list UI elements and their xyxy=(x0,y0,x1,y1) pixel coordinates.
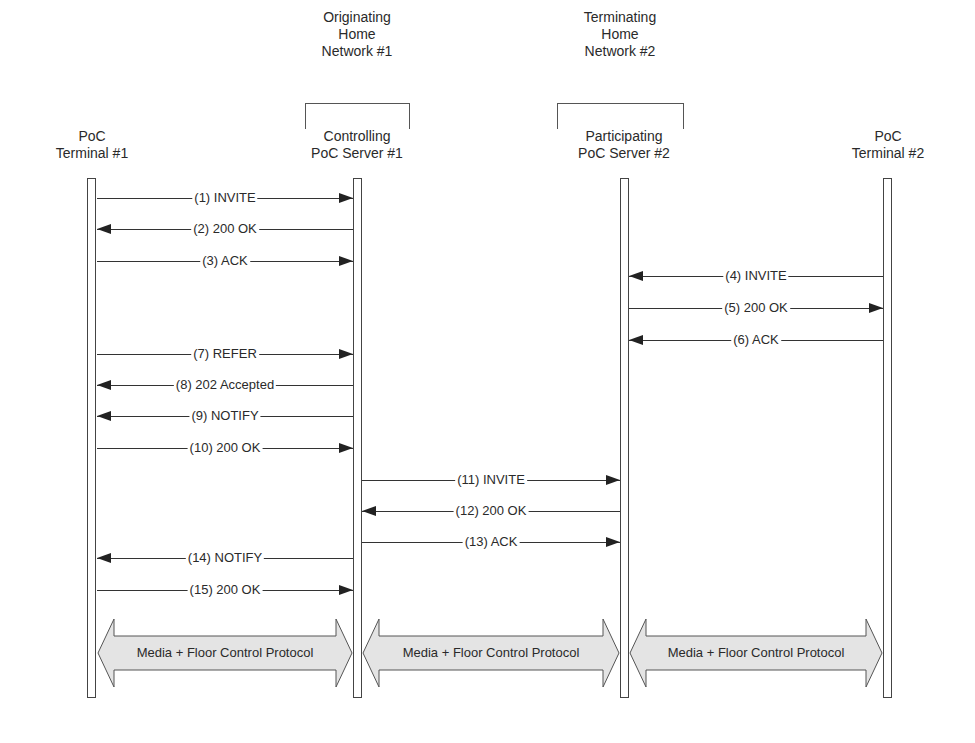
network-bracket-1 xyxy=(305,103,410,129)
network-bracket-2 xyxy=(557,103,684,129)
message-label: (7) REFER xyxy=(191,346,259,362)
entity-label-terminal-1: PoC Terminal #1 xyxy=(56,128,128,162)
message-label: (4) INVITE xyxy=(723,268,788,284)
lifeline-terminal-2 xyxy=(883,178,892,698)
message-label: (6) ACK xyxy=(731,332,781,348)
message-label: (2) 200 OK xyxy=(191,221,259,237)
lifeline-server-1 xyxy=(353,178,362,698)
message-label: (8) 202 Accepted xyxy=(174,377,276,393)
arrow-left-icon xyxy=(97,411,111,421)
message-5-200ok: (5) 200 OK xyxy=(629,300,883,316)
message-12-200ok: (12) 200 OK xyxy=(362,503,620,519)
message-label: (14) NOTIFY xyxy=(186,550,264,566)
message-label: (5) 200 OK xyxy=(722,300,790,316)
message-8-202-accepted: (8) 202 Accepted xyxy=(97,377,353,393)
network-label-line: Home xyxy=(322,26,393,43)
entity-label-line: Participating xyxy=(578,128,670,145)
network-label-terminating: Terminating Home Network #2 xyxy=(584,9,656,60)
message-13-ack: (13) ACK xyxy=(362,534,620,550)
message-label: (15) 200 OK xyxy=(188,582,263,598)
entity-label-line: Terminal #2 xyxy=(852,145,924,162)
arrow-right-icon xyxy=(339,585,353,595)
entity-label-line: PoC Server #1 xyxy=(311,145,403,162)
message-1-invite: (1) INVITE xyxy=(97,190,353,206)
arrow-right-icon xyxy=(339,256,353,266)
arrow-left-icon xyxy=(97,553,111,563)
message-label: (1) INVITE xyxy=(192,190,257,206)
network-label-line: Network #2 xyxy=(584,43,656,60)
arrow-left-icon xyxy=(629,271,643,281)
message-10-200ok: (10) 200 OK xyxy=(97,440,353,456)
arrow-right-icon xyxy=(606,475,620,485)
message-14-notify: (14) NOTIFY xyxy=(97,550,353,566)
arrow-left-icon xyxy=(97,224,111,234)
message-label: (10) 200 OK xyxy=(188,440,263,456)
arrow-right-icon xyxy=(339,193,353,203)
message-9-notify: (9) NOTIFY xyxy=(97,408,353,424)
message-6-ack: (6) ACK xyxy=(629,332,883,348)
media-flow-label-2: Media + Floor Control Protocol xyxy=(403,645,580,661)
message-label: (12) 200 OK xyxy=(454,503,529,519)
lifeline-terminal-1 xyxy=(87,178,96,698)
network-label-line: Home xyxy=(584,26,656,43)
message-15-200ok: (15) 200 OK xyxy=(97,582,353,598)
entity-label-terminal-2: PoC Terminal #2 xyxy=(852,128,924,162)
media-flow-label-1: Media + Floor Control Protocol xyxy=(137,645,314,661)
message-label: (13) ACK xyxy=(463,534,520,550)
message-11-invite: (11) INVITE xyxy=(362,472,620,488)
entity-label-line: Controlling xyxy=(311,128,403,145)
network-label-line: Originating xyxy=(322,9,393,26)
message-label: (9) NOTIFY xyxy=(189,408,260,424)
network-label-originating: Originating Home Network #1 xyxy=(322,9,393,60)
entity-label-server-2: Participating PoC Server #2 xyxy=(578,128,670,162)
arrow-left-icon xyxy=(629,335,643,345)
lifeline-server-2 xyxy=(620,178,629,698)
network-label-line: Terminating xyxy=(584,9,656,26)
message-label: (11) INVITE xyxy=(455,472,527,488)
message-3-ack: (3) ACK xyxy=(97,253,353,269)
entity-label-line: PoC Server #2 xyxy=(578,145,670,162)
arrow-right-icon xyxy=(606,537,620,547)
arrow-right-icon xyxy=(869,303,883,313)
message-7-refer: (7) REFER xyxy=(97,346,353,362)
arrow-right-icon xyxy=(339,349,353,359)
media-flow-label-3: Media + Floor Control Protocol xyxy=(668,645,845,661)
message-label: (3) ACK xyxy=(200,253,250,269)
arrow-right-icon xyxy=(339,443,353,453)
message-2-200ok: (2) 200 OK xyxy=(97,221,353,237)
arrow-left-icon xyxy=(362,506,376,516)
entity-label-line: PoC xyxy=(56,128,128,145)
entity-label-server-1: Controlling PoC Server #1 xyxy=(311,128,403,162)
arrow-left-icon xyxy=(97,380,111,390)
message-4-invite: (4) INVITE xyxy=(629,268,883,284)
network-label-line: Network #1 xyxy=(322,43,393,60)
entity-label-line: PoC xyxy=(852,128,924,145)
entity-label-line: Terminal #1 xyxy=(56,145,128,162)
